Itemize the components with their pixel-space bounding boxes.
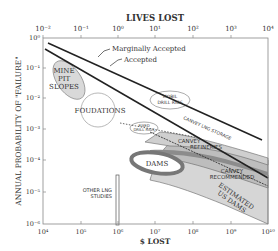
canvey-refineries-label-2: REFINERIES (190, 144, 223, 150)
svg-text:10⁴: 10⁴ (262, 25, 274, 33)
top-axis-label: LIVES LOST (126, 13, 185, 23)
y-axis-ticks: 10⁰ 10⁻¹ 10⁻² 10⁻³ 10⁻⁴ 10⁻⁵ 10⁻⁶ (26, 34, 41, 228)
svg-text:10⁶: 10⁶ (113, 228, 124, 236)
y-axis-label: ANNUAL PROBABILITY OF "FAILURE" (14, 56, 23, 207)
other-lng-label-2: STUDIES (90, 193, 112, 199)
fixed-drill-rigs-label: DRILL RIGS (133, 127, 155, 132)
mobil-drill-rigs-label: DRILL RIGS (157, 100, 182, 105)
marginally-leader (98, 49, 110, 57)
other-lng-studies-bar (116, 175, 119, 225)
svg-text:10⁻³: 10⁻³ (26, 125, 41, 133)
x-axis-ticks: 10⁴ 10⁵ 10⁶ 10⁷ 10⁸ 10⁹ 10¹⁰ (38, 228, 276, 236)
svg-text:10⁻⁵: 10⁻⁵ (26, 188, 41, 196)
svg-text:10⁰: 10⁰ (29, 34, 40, 42)
canvey-recommended-label-2: RECOMMENDED (210, 174, 255, 180)
svg-text:10⁻⁴: 10⁻⁴ (26, 156, 41, 164)
svg-text:10⁷: 10⁷ (150, 228, 161, 236)
svg-text:10⁻¹: 10⁻¹ (73, 25, 89, 33)
svg-text:10⁵: 10⁵ (76, 228, 87, 236)
foundations-label: FOUDATIONS (75, 107, 126, 115)
pit-label: PIT (58, 75, 70, 83)
svg-text:10⁻²: 10⁻² (35, 25, 51, 33)
slopes-label: SLOPES (49, 83, 79, 91)
svg-text:10⁸: 10⁸ (188, 228, 199, 236)
annotations: Marginally Accepted Accepted MINE PIT SL… (49, 45, 255, 215)
top-axis-ticks: 10⁻² 10⁻¹ 10⁰ 10¹ 10² 10³ 10⁴ (35, 25, 274, 33)
svg-text:10¹: 10¹ (149, 25, 161, 33)
svg-text:10⁰: 10⁰ (112, 25, 124, 33)
svg-text:10⁻²: 10⁻² (26, 94, 41, 102)
svg-text:10²: 10² (187, 25, 199, 33)
accepted-leader (110, 59, 122, 66)
svg-text:10⁻¹: 10⁻¹ (26, 64, 41, 72)
svg-text:10⁻⁶: 10⁻⁶ (26, 220, 41, 228)
marginally-accepted-label: Marginally Accepted (112, 45, 186, 53)
accepted-label: Accepted (123, 56, 157, 64)
mobil-label: MOBIL (163, 94, 178, 99)
svg-text:10³: 10³ (225, 25, 237, 33)
x-axis-label: $ LOST (140, 237, 171, 246)
mine-label: MINE (53, 67, 74, 75)
svg-text:10¹⁰: 10¹⁰ (261, 228, 275, 236)
svg-text:10⁹: 10⁹ (226, 228, 237, 236)
dams-label: DAMS (146, 160, 169, 168)
risk-chart: LIVES LOST 10⁻² 10⁻¹ 10⁰ 10¹ 10² 10³ 10⁴ (0, 0, 278, 251)
svg-text:10⁴: 10⁴ (38, 228, 49, 236)
